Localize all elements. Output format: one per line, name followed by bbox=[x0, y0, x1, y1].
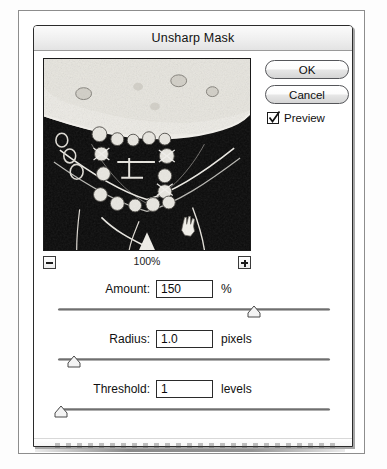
zoom-level-label: 100% bbox=[43, 255, 251, 267]
zoom-in-button[interactable] bbox=[238, 256, 251, 269]
amount-slider-thumb[interactable] bbox=[247, 305, 261, 318]
threshold-label: Threshold: bbox=[34, 382, 156, 396]
cancel-button[interactable]: Cancel bbox=[265, 85, 349, 104]
radius-slider[interactable] bbox=[58, 355, 330, 371]
radius-slider-track[interactable] bbox=[58, 358, 330, 361]
threshold-input[interactable]: 1 bbox=[156, 380, 213, 398]
radius-unit: pixels bbox=[213, 332, 252, 346]
preview-image bbox=[44, 59, 250, 250]
amount-label: Amount: bbox=[34, 282, 156, 296]
amount-slider-track[interactable] bbox=[58, 308, 330, 311]
radius-line: Radius: 1.0 pixels bbox=[34, 329, 334, 349]
preview-checkbox[interactable] bbox=[267, 112, 279, 124]
plus-icon-vertical bbox=[244, 260, 246, 267]
amount-line: Amount: 150 % bbox=[34, 279, 334, 299]
scan-artifact-bottom-text bbox=[55, 443, 340, 448]
threshold-slider[interactable] bbox=[58, 405, 330, 421]
unsharp-mask-dialog: Unsharp Mask bbox=[33, 25, 353, 447]
radius-label: Radius: bbox=[34, 332, 156, 346]
radius-slider-thumb[interactable] bbox=[67, 355, 81, 368]
dialog-title: Unsharp Mask bbox=[152, 31, 235, 45]
preview-checkbox-label: Preview bbox=[284, 112, 325, 124]
radius-input[interactable]: 1.0 bbox=[156, 330, 213, 348]
preview-zoom-controls: 100% bbox=[43, 254, 251, 272]
threshold-slider-thumb[interactable] bbox=[54, 405, 68, 418]
scanned-page: Unsharp Mask bbox=[0, 0, 387, 469]
amount-input[interactable]: 150 bbox=[156, 280, 213, 298]
threshold-unit: levels bbox=[213, 382, 252, 396]
threshold-line: Threshold: 1 levels bbox=[34, 379, 334, 399]
checkmark-icon bbox=[267, 110, 282, 125]
preview-thumbnail[interactable] bbox=[43, 58, 251, 251]
threshold-slider-track[interactable] bbox=[58, 408, 330, 411]
dialog-body: 100% OK Cancel Preview bbox=[34, 51, 352, 447]
dialog-titlebar: Unsharp Mask bbox=[34, 26, 352, 51]
preview-checkbox-row[interactable]: Preview bbox=[267, 112, 325, 124]
amount-slider[interactable] bbox=[58, 305, 330, 321]
scan-artifact-bottom-bar bbox=[35, 449, 345, 452]
amount-unit: % bbox=[213, 282, 232, 296]
ok-button[interactable]: OK bbox=[265, 60, 349, 79]
